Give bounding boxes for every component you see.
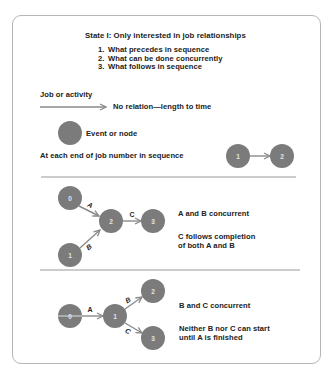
list-item: 3.What follows in sequence bbox=[98, 63, 202, 72]
activity-label: Job or activity bbox=[40, 91, 92, 100]
sequence-label: At each end of job number in sequence bbox=[40, 152, 184, 161]
list-number: 3. bbox=[98, 63, 108, 72]
activity-description: No relation—length to time bbox=[113, 103, 211, 112]
list-text: What follows in sequence bbox=[108, 62, 202, 71]
diagram-title: State I: Only interested in job relation… bbox=[85, 32, 246, 41]
merge-note-follows-line2: of both A and B bbox=[178, 242, 235, 251]
burst-note-concurrent: B and C concurrent bbox=[179, 302, 250, 311]
merge-note-concurrent: A and B concurrent bbox=[178, 210, 249, 219]
event-label: Event or node bbox=[86, 130, 137, 139]
burst-note-start-line2: until A is finished bbox=[179, 334, 243, 343]
